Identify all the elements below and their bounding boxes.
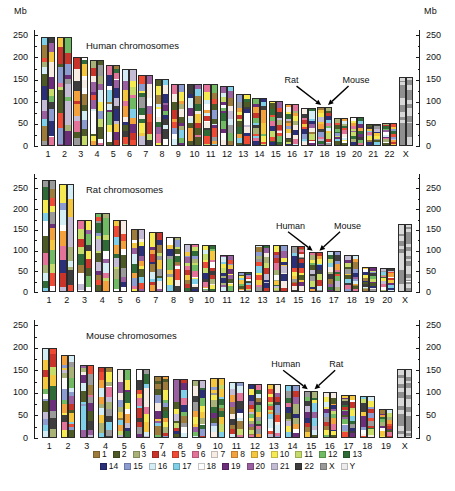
legend-item-22[interactable]: 22 xyxy=(295,462,313,471)
legend-label-21: 21 xyxy=(280,462,289,471)
y-tick-label-200-l: 200 xyxy=(0,205,28,214)
legend-swatch-12 xyxy=(319,451,326,458)
legend-item-12[interactable]: 12 xyxy=(319,450,337,459)
legend-swatch-22 xyxy=(295,463,302,470)
x-axis-label-rat-7: 7 xyxy=(147,296,165,305)
legend-label-1: 1 xyxy=(102,450,107,459)
legend-item-8[interactable]: 8 xyxy=(231,450,245,459)
legend-label-11: 11 xyxy=(304,450,313,459)
x-axis-label-human-X: X xyxy=(397,150,415,159)
legend-item-Y[interactable]: Y xyxy=(341,462,356,471)
legend-swatch-8 xyxy=(231,451,238,458)
legend-label-X: X xyxy=(329,462,335,471)
y-tick-label-100-l: 100 xyxy=(0,97,28,106)
legend-item-16[interactable]: 16 xyxy=(149,462,167,471)
legend-item-20[interactable]: 20 xyxy=(247,462,265,471)
y-tick-label-100-r: 100 xyxy=(426,388,455,397)
y-tick-label-0-l: 0 xyxy=(0,434,28,443)
legend-item-21[interactable]: 21 xyxy=(271,462,289,471)
legend-item-19[interactable]: 19 xyxy=(222,462,240,471)
legend-swatch-X xyxy=(320,463,327,470)
legend-label-22: 22 xyxy=(304,462,313,471)
y-tick-label-200-r: 200 xyxy=(426,343,455,352)
annotation-arrow-mouse-rat xyxy=(34,320,420,438)
legend-swatch-14 xyxy=(100,463,107,470)
legend-item-17[interactable]: 17 xyxy=(173,462,191,471)
legend-swatch-4 xyxy=(152,451,159,458)
x-axis-label-rat-11: 11 xyxy=(218,296,236,305)
y-tick-label-200-r: 200 xyxy=(426,205,455,214)
x-axis-label-rat-17: 17 xyxy=(325,296,343,305)
x-axis-label-rat-X: X xyxy=(396,296,414,305)
legend-swatch-20 xyxy=(247,463,254,470)
legend-item-2[interactable]: 2 xyxy=(113,450,127,459)
y-tick-label-0-l: 0 xyxy=(0,288,28,297)
legend-label-12: 12 xyxy=(328,450,337,459)
y-tick-label-150-l: 150 xyxy=(0,75,28,84)
axis-unit-label-left: Mb xyxy=(14,6,27,16)
x-axis-label-rat-4: 4 xyxy=(93,296,111,305)
legend-label-Y: Y xyxy=(350,462,356,471)
legend-item-6[interactable]: 6 xyxy=(192,450,206,459)
legend-item-X[interactable]: X xyxy=(320,462,335,471)
y-tick-0-l xyxy=(34,146,38,147)
legend-swatch-11 xyxy=(295,451,302,458)
y-tick-label-0-r: 0 xyxy=(426,142,455,151)
legend-item-5[interactable]: 5 xyxy=(172,450,186,459)
legend-label-20: 20 xyxy=(256,462,265,471)
legend-row-2: 141516171819202122XY xyxy=(0,462,455,471)
legend-item-9[interactable]: 9 xyxy=(251,450,265,459)
legend-label-10: 10 xyxy=(280,450,289,459)
y-tick-label-0-l: 0 xyxy=(0,142,28,151)
legend-label-14: 14 xyxy=(109,462,118,471)
y-tick-label-100-l: 100 xyxy=(0,388,28,397)
legend-item-18[interactable]: 18 xyxy=(198,462,216,471)
legend-item-4[interactable]: 4 xyxy=(152,450,166,459)
y-tick-label-200-l: 200 xyxy=(0,343,28,352)
legend-item-13[interactable]: 13 xyxy=(343,450,361,459)
legend-label-17: 17 xyxy=(182,462,191,471)
y-tick-label-50-l: 50 xyxy=(0,119,28,128)
y-tick-label-150-l: 150 xyxy=(0,225,28,234)
legend-label-5: 5 xyxy=(181,450,186,459)
legend-label-7: 7 xyxy=(220,450,225,459)
plot-area-human: 0050501001001501502002002502501234567891… xyxy=(34,30,420,146)
y-tick-label-50-r: 50 xyxy=(426,119,455,128)
legend-swatch-19 xyxy=(222,463,229,470)
legend-item-14[interactable]: 14 xyxy=(100,462,118,471)
legend-swatch-1 xyxy=(93,451,100,458)
y-tick-0-r xyxy=(416,292,420,293)
legend-swatch-21 xyxy=(271,463,278,470)
y-tick-label-50-r: 50 xyxy=(426,411,455,420)
annotation-arrow-human-mouse xyxy=(34,30,420,146)
legend-item-7[interactable]: 7 xyxy=(211,450,225,459)
x-axis-label-rat-8: 8 xyxy=(165,296,183,305)
annotation-arrow-rat-mouse xyxy=(34,174,420,292)
legend-label-2: 2 xyxy=(122,450,127,459)
y-tick-0-r xyxy=(416,146,420,147)
legend-item-11[interactable]: 11 xyxy=(295,450,313,459)
panel-human: MbMbHuman chromosomes0050501001001501502… xyxy=(0,14,455,164)
legend-swatch-18 xyxy=(198,463,205,470)
legend-item-1[interactable]: 1 xyxy=(93,450,107,459)
plot-area-mouse: 0050501001001501502002002502501234567891… xyxy=(34,320,420,438)
legend-label-3: 3 xyxy=(142,450,147,459)
panel-mouse: Mouse chromosomes00505010010015015020020… xyxy=(0,312,455,464)
legend-item-10[interactable]: 10 xyxy=(271,450,289,459)
chromosome-color-legend: 12345678910111213141516171819202122XY xyxy=(0,450,455,471)
legend-swatch-Y xyxy=(341,463,348,470)
legend-label-6: 6 xyxy=(201,450,206,459)
y-tick-label-150-r: 150 xyxy=(426,225,455,234)
legend-row-1: 12345678910111213 xyxy=(0,450,455,459)
x-axis-label-rat-13: 13 xyxy=(254,296,272,305)
y-tick-0-r xyxy=(416,438,420,439)
legend-item-3[interactable]: 3 xyxy=(133,450,147,459)
legend-label-8: 8 xyxy=(240,450,245,459)
x-axis-label-rat-6: 6 xyxy=(129,296,147,305)
legend-item-15[interactable]: 15 xyxy=(124,462,142,471)
legend-swatch-13 xyxy=(343,451,350,458)
x-axis-label-rat-15: 15 xyxy=(289,296,307,305)
legend-label-16: 16 xyxy=(158,462,167,471)
x-axis-label-rat-16: 16 xyxy=(307,296,325,305)
x-axis-label-rat-10: 10 xyxy=(200,296,218,305)
